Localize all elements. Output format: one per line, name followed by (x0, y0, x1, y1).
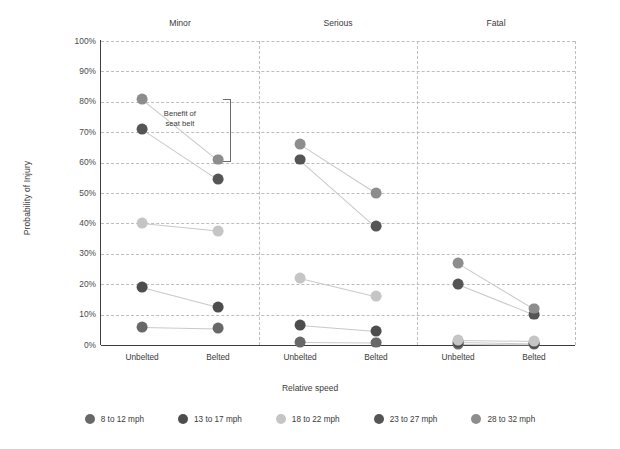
x-tick-serious-belted: Belted (331, 352, 421, 362)
connector-fatal-3 (458, 284, 534, 315)
marker-fatal-belted-4[interactable] (529, 303, 540, 314)
plot-area: Benefit of seat belt (101, 41, 575, 345)
y-tick-70: 70% (62, 128, 96, 136)
connector-minor-2 (142, 223, 218, 232)
legend-label-0: 8 to 12 mph (101, 415, 144, 424)
marker-minor-belted-3[interactable] (213, 174, 224, 185)
marker-minor-unbelted-4[interactable] (137, 93, 148, 104)
marker-minor-unbelted-2[interactable] (137, 218, 148, 229)
benefit-annotation-text: Benefit of seat belt (140, 109, 220, 130)
marker-serious-unbelted-2[interactable] (295, 273, 306, 284)
panel-title-fatal: Fatal (436, 18, 556, 28)
panel-divider-1 (259, 41, 260, 345)
benefit-annotation-bracket (223, 99, 231, 162)
marker-serious-unbelted-3[interactable] (295, 154, 306, 165)
gridline-10 (101, 315, 575, 316)
connector-minor-3 (142, 129, 218, 180)
marker-fatal-unbelted-3[interactable] (453, 279, 464, 290)
gridline-60 (101, 163, 575, 164)
marker-serious-unbelted-0[interactable] (295, 337, 306, 348)
y-tick-10: 10% (62, 310, 96, 318)
marker-serious-belted-3[interactable] (371, 221, 382, 232)
legend-item-1[interactable]: 13 to 17 mph (178, 414, 242, 424)
injury-probability-chart: Probability of Injury 100%90%80%70%60%50… (0, 0, 620, 449)
marker-minor-belted-4[interactable] (213, 154, 224, 165)
marker-serious-belted-4[interactable] (371, 188, 382, 199)
legend: 8 to 12 mph13 to 17 mph18 to 22 mph23 to… (0, 414, 620, 424)
y-axis-tick-labels: 100%90%80%70%60%50%40%30%20%10%0% (60, 0, 96, 449)
legend-item-3[interactable]: 23 to 27 mph (374, 414, 438, 424)
y-tick-60: 60% (62, 158, 96, 166)
marker-minor-unbelted-1[interactable] (137, 282, 148, 293)
panel-divider-3 (575, 41, 576, 345)
y-tick-20: 20% (62, 280, 96, 288)
marker-minor-belted-0[interactable] (213, 323, 224, 334)
y-axis-title: Probability of Injury (22, 138, 32, 258)
benefit-annotation-line2: seat belt (140, 119, 220, 129)
legend-item-4[interactable]: 28 to 32 mph (471, 414, 535, 424)
legend-item-0[interactable]: 8 to 12 mph (85, 414, 144, 424)
gridline-70 (101, 132, 575, 133)
marker-minor-belted-1[interactable] (213, 302, 224, 313)
legend-swatch-icon-2 (276, 414, 286, 424)
gridline-30 (101, 254, 575, 255)
legend-swatch-icon-1 (178, 414, 188, 424)
y-tick-90: 90% (62, 67, 96, 75)
marker-serious-belted-0[interactable] (371, 337, 382, 348)
legend-swatch-icon-4 (471, 414, 481, 424)
connector-minor-0 (142, 327, 218, 330)
legend-swatch-icon-0 (85, 414, 95, 424)
y-tick-40: 40% (62, 219, 96, 227)
marker-fatal-unbelted-4[interactable] (453, 258, 464, 269)
legend-label-3: 23 to 27 mph (390, 415, 438, 424)
y-tick-30: 30% (62, 249, 96, 257)
y-tick-0: 0% (62, 341, 96, 349)
gridline-80 (101, 102, 575, 103)
connector-fatal-4 (458, 263, 534, 309)
marker-serious-belted-2[interactable] (371, 291, 382, 302)
legend-label-1: 13 to 17 mph (194, 415, 242, 424)
panel-divider-2 (417, 41, 418, 345)
connector-serious-1 (300, 325, 376, 332)
marker-serious-unbelted-1[interactable] (295, 320, 306, 331)
legend-label-4: 28 to 32 mph (487, 415, 535, 424)
marker-serious-belted-1[interactable] (371, 326, 382, 337)
marker-minor-belted-2[interactable] (213, 226, 224, 237)
y-tick-80: 80% (62, 97, 96, 105)
benefit-annotation-line1: Benefit of (140, 109, 220, 119)
gridline-40 (101, 223, 575, 224)
marker-fatal-unbelted-2[interactable] (453, 335, 464, 346)
y-tick-50: 50% (62, 189, 96, 197)
legend-swatch-icon-3 (374, 414, 384, 424)
connector-serious-2 (300, 278, 376, 297)
x-axis-title: Relative speed (0, 383, 620, 393)
marker-fatal-belted-2[interactable] (529, 336, 540, 347)
panel-title-minor: Minor (120, 18, 240, 28)
panel-title-serious: Serious (278, 18, 398, 28)
gridline-90 (101, 71, 575, 72)
connector-minor-1 (142, 287, 218, 308)
legend-label-2: 18 to 22 mph (292, 415, 340, 424)
x-tick-fatal-belted: Belted (489, 352, 579, 362)
marker-serious-unbelted-4[interactable] (295, 139, 306, 150)
connector-serious-0 (300, 342, 376, 344)
gridline-20 (101, 284, 575, 285)
marker-minor-unbelted-0[interactable] (137, 321, 148, 332)
x-tick-minor-belted: Belted (173, 352, 263, 362)
legend-item-2[interactable]: 18 to 22 mph (276, 414, 340, 424)
y-tick-100: 100% (62, 37, 96, 45)
gridline-100 (101, 41, 575, 42)
